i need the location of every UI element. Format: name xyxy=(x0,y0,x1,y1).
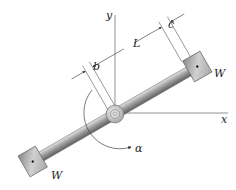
dimension-b-label: b xyxy=(93,61,100,72)
upper-weight-label: W xyxy=(214,68,225,79)
dimension-c-label: c xyxy=(168,19,174,30)
dimension-L-label: L xyxy=(133,38,140,49)
angle-alpha-label: α xyxy=(135,143,142,154)
rod xyxy=(0,9,216,177)
lower-weight-label: W xyxy=(51,170,62,181)
pivot-hub xyxy=(106,105,124,123)
x-axis-label: x xyxy=(221,114,227,125)
y-axis-label: y xyxy=(106,10,112,21)
mechanism-diagram xyxy=(0,0,236,190)
